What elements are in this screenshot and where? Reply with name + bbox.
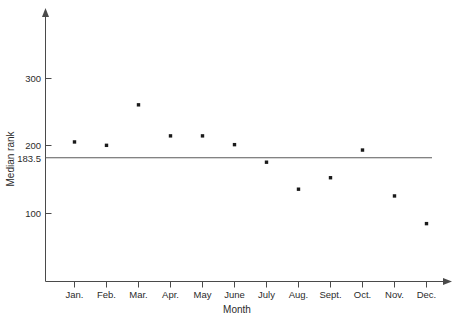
data-point-mar — [137, 103, 140, 106]
x-tick-label-dec: Dec. — [417, 289, 437, 300]
x-axis-title: Month — [223, 304, 251, 315]
data-point-dec — [425, 222, 428, 225]
data-point-aug — [297, 188, 300, 191]
data-point-feb — [105, 144, 108, 147]
y-tick-marks — [46, 79, 52, 214]
data-point-oct — [361, 148, 364, 151]
x-tick-labels: Jan. Feb. Mar. Apr. May June July Aug. S… — [66, 289, 437, 300]
x-tick-label-nov: Nov. — [385, 289, 404, 300]
data-point-june — [233, 143, 236, 146]
y-tick-label-183-5: 183.5 — [17, 153, 41, 164]
x-tick-label-may: May — [194, 289, 212, 300]
data-point-apr — [169, 134, 172, 137]
data-point-sept — [329, 176, 332, 179]
x-tick-label-aug: Aug. — [289, 289, 309, 300]
y-axis-arrow-icon — [42, 8, 49, 17]
scatter-plot: 300 200 183.5 100 Median rank Jan. — [0, 0, 459, 318]
data-point-july — [265, 161, 268, 164]
x-tick-label-apr: Apr. — [162, 289, 179, 300]
y-tick-labels: 300 200 183.5 100 — [17, 73, 41, 219]
x-tick-label-sept: Sept. — [319, 289, 341, 300]
y-tick-label-300: 300 — [25, 73, 41, 84]
x-tick-label-june: June — [224, 289, 245, 300]
y-axis — [42, 8, 49, 282]
y-tick-label-100: 100 — [25, 208, 41, 219]
x-tick-label-feb: Feb. — [97, 289, 116, 300]
data-point-may — [201, 134, 204, 137]
x-axis-arrow-icon — [443, 278, 452, 285]
x-tick-label-mar: Mar. — [129, 289, 147, 300]
x-tick-label-july: July — [258, 289, 275, 300]
x-tick-marks — [75, 282, 427, 288]
y-axis-title: Median rank — [5, 130, 16, 186]
y-tick-label-200: 200 — [25, 140, 41, 151]
chart-figure: 300 200 183.5 100 Median rank Jan. — [0, 0, 459, 318]
data-point-jan — [73, 140, 76, 143]
data-series-median-rank — [73, 103, 428, 225]
x-tick-label-jan: Jan. — [66, 289, 84, 300]
x-tick-label-oct: Oct. — [354, 289, 371, 300]
data-point-nov — [393, 194, 396, 197]
